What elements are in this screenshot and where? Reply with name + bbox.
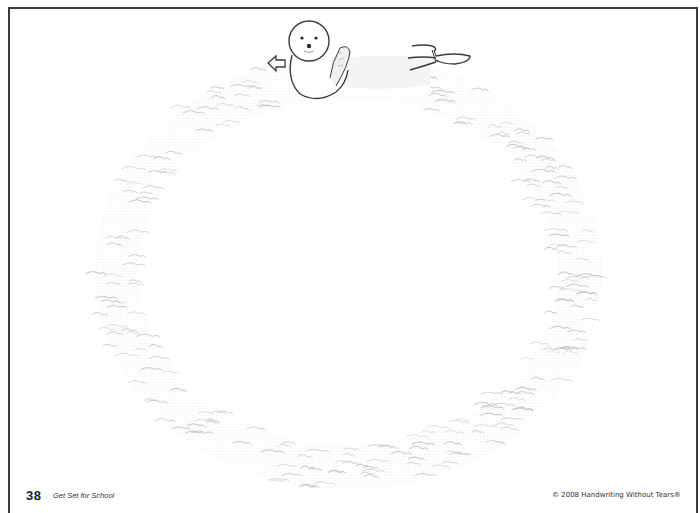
- wave-ring: [86, 67, 607, 488]
- copyright-notice: © 2008 Handwriting Without Tears®: [552, 491, 681, 499]
- page-number: 38: [26, 488, 41, 503]
- book-title: Get Set for School: [53, 491, 114, 500]
- seal-wave-ring-illustration: [0, 0, 700, 513]
